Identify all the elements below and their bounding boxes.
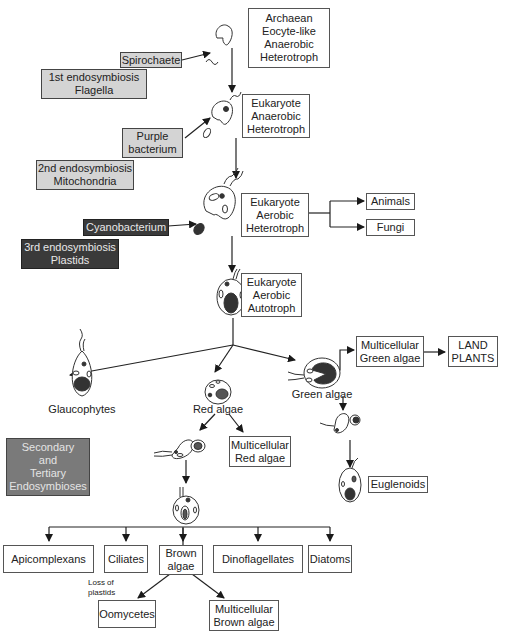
glaucophytes-label: Glaucophytes [40, 403, 124, 416]
third-endosymbiosis-box: 3rd endosymbiosis Plastids [21, 239, 119, 269]
ciliates-box: Ciliates [104, 545, 148, 573]
second-endosymbiosis-box: 2nd endosymbiosis Mitochondria [36, 160, 134, 190]
oomycetes-box: Oomycetes [98, 600, 156, 628]
dinoflagellates-box: Dinoflagellates [213, 545, 303, 573]
archaean-box: Archaean Eocyte-like Anaerobic Heterotro… [248, 8, 330, 68]
first-endosymbiosis-box: 1st endosymbiosis Flagella [41, 69, 147, 99]
archaean-cell-icon [216, 25, 232, 45]
multicellular-green-algae-box: Multicellular Green algae [356, 336, 424, 367]
euglenoids-box: Euglenoids [368, 476, 428, 493]
multicellular-red-algae-box: Multicellular Red algae [229, 436, 291, 467]
loss-of-plastids-note: Loss of plastids [88, 578, 128, 598]
multicellular-brown-algae-box: Multicellular Brown algae [209, 600, 279, 631]
secondary-tertiary-box: Secondary and Tertiary Endosymbioses [6, 438, 90, 496]
animals-box: Animals [366, 193, 415, 210]
land-plants-box: LAND PLANTS [448, 336, 498, 367]
apicomplexans-box: Apicomplexans [3, 545, 94, 573]
eukaryote-aerobic-heterotroph-box: Eukaryote Aerobic Heterotroph [241, 193, 309, 237]
purple-bacterium-box: Purple bacterium [122, 128, 183, 158]
brown-algae-box: Brown algae [159, 545, 203, 575]
spirochaete-box: Spirochaete [120, 52, 182, 68]
eukaryote-aerobic-autotroph-box: Eukaryote Aerobic Autotroph [241, 273, 302, 317]
red-algae-label: Red algae [186, 403, 250, 416]
diatoms-box: Diatoms [308, 545, 352, 573]
eukaryote-anaerobic-box: Eukaryote Anaerobic Heterotroph [242, 94, 310, 138]
green-algae-label: Green algae [290, 388, 354, 401]
fungi-box: Fungi [366, 219, 415, 236]
cyanobacterium-box: Cyanobacterium [83, 219, 169, 236]
endosymbiosis-diagram: Archaean Eocyte-like Anaerobic Heterotro… [0, 0, 511, 641]
